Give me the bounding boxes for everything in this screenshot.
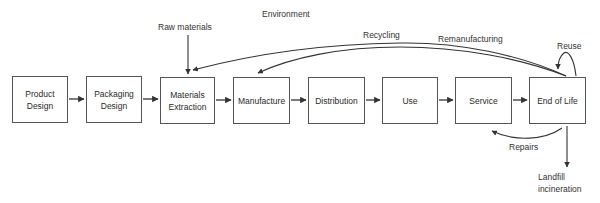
stage-label: Manufacture <box>238 95 285 107</box>
stage-materials-extraction: Materials Extraction <box>160 77 215 124</box>
stage-end-of-life: End of Life <box>529 77 586 124</box>
stage-label: Distribution <box>315 95 358 107</box>
stage-label: Service <box>469 95 497 107</box>
stage-product-design: Product Design <box>12 76 68 123</box>
stage-label: Use <box>402 95 417 107</box>
raw-materials-label: Raw materials <box>158 22 212 33</box>
repairs-arrow <box>492 128 562 138</box>
recycling-label: Recycling <box>363 30 400 41</box>
stage-label: Materials Extraction <box>169 89 207 113</box>
landfill-incineration-label: Landfill incineration <box>538 171 581 195</box>
stage-label: Packaging Design <box>94 88 134 112</box>
remanufacturing-label: Remanufacturing <box>438 34 503 45</box>
stage-use: Use <box>382 77 438 124</box>
reuse-arrow <box>558 52 576 76</box>
remanufacturing-arrow <box>258 47 566 76</box>
stage-label: Product Design <box>25 88 54 112</box>
stage-packaging-design: Packaging Design <box>86 76 142 123</box>
lifecycle-diagram: Environment Raw materials Recycling Rema… <box>0 0 600 203</box>
stage-distribution: Distribution <box>308 77 365 124</box>
stage-label: End of Life <box>537 95 578 107</box>
repairs-label: Repairs <box>509 142 538 153</box>
stage-service: Service <box>455 77 512 124</box>
stage-manufacture: Manufacture <box>233 77 290 124</box>
environment-label: Environment <box>262 9 310 20</box>
reuse-label: Reuse <box>557 41 582 52</box>
